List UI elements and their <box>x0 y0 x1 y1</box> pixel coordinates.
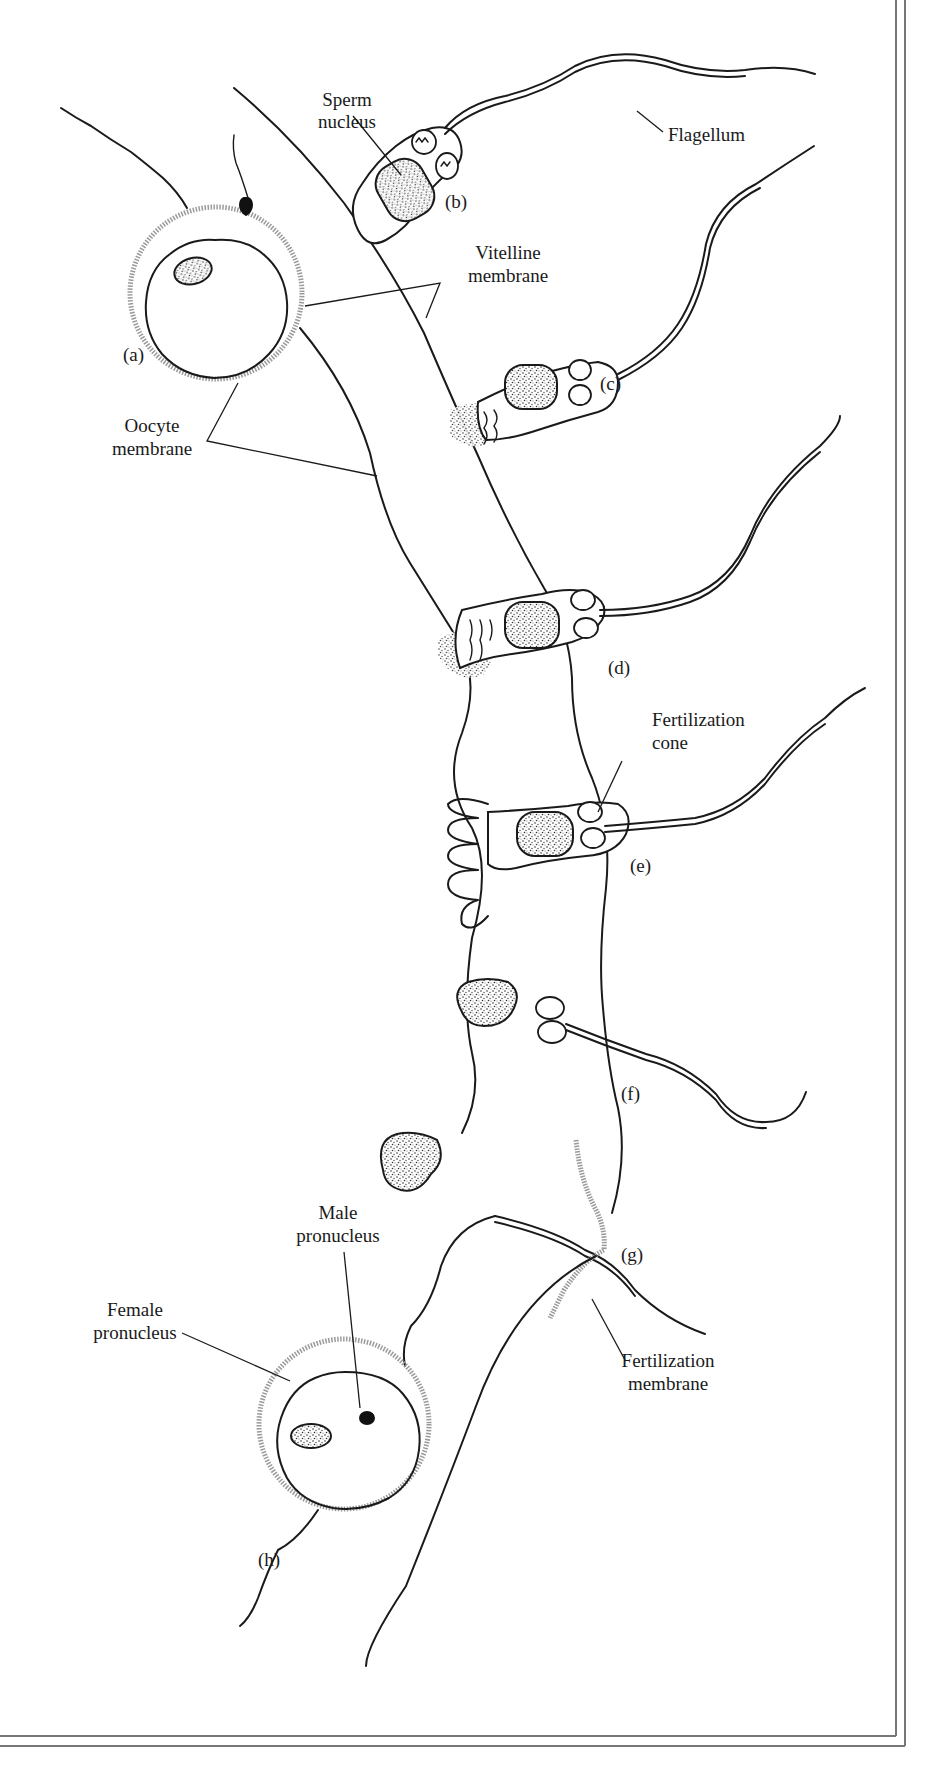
sperm-e-nucleus <box>517 812 573 856</box>
zygote-vitelline-layer <box>259 1339 429 1509</box>
oocyte-membrane-outline <box>146 240 287 378</box>
callout-sperm-nucleus-line1: Sperm <box>322 89 372 110</box>
sperm-d-mitochondrion <box>571 590 595 610</box>
stage-b-sperm <box>353 54 815 243</box>
oocyte-membrane-line <box>300 328 482 1133</box>
callout-fertilization-cone-line1: Fertilization <box>652 709 745 730</box>
sperm-e-flagellum-inner <box>605 724 825 832</box>
fertilization-diagram: (a) (b) (c) (d) (e) (f) (g) (h) Sperm nu… <box>0 0 932 1774</box>
stage-h-zygote <box>240 1216 596 1666</box>
label-stage-h: (h) <box>258 1549 280 1571</box>
vitelline-layer <box>130 207 302 379</box>
label-stage-c: (c) <box>600 373 621 395</box>
label-stage-a: (a) <box>123 344 144 366</box>
sperm-d-nucleus <box>505 602 559 648</box>
leader-fertilization-membrane <box>592 1299 625 1360</box>
sperm-f-mitochondrion <box>538 1021 566 1043</box>
lower-membrane-left <box>404 1216 495 1366</box>
callout-vitelline-membrane-line1: Vitelline <box>475 242 540 263</box>
female-pronucleus <box>291 1424 331 1448</box>
callout-fertilization-cone-line2: cone <box>652 732 688 753</box>
sperm-e-mitochondrion <box>581 828 605 848</box>
sperm-d-flagellum <box>600 416 840 610</box>
sperm-g-flagellum <box>495 1216 705 1334</box>
stage-d-sperm <box>438 416 840 678</box>
sperm-d-mitochondrion <box>574 618 598 638</box>
leader-flagellum <box>637 111 663 132</box>
callout-flagellum: Flagellum <box>668 124 745 145</box>
callout-sperm-nucleus-line2: nucleus <box>318 111 376 132</box>
callout-oocyte-membrane-line1: Oocyte <box>125 415 180 436</box>
figure-frame <box>0 0 905 1746</box>
sperm-b-flagellum <box>445 54 815 128</box>
callout-vitelline-membrane-line2: membrane <box>468 265 548 286</box>
leader-male-pronucleus <box>344 1252 360 1408</box>
diagram-canvas: (a) (b) (c) (d) (e) (f) (g) (h) Sperm nu… <box>0 0 932 1774</box>
leader-lines <box>182 111 663 1408</box>
label-stage-f: (f) <box>621 1083 640 1105</box>
leader-oocyte-membrane <box>207 383 377 476</box>
sperm-f-mitochondrion <box>536 997 564 1019</box>
callout-female-pronucleus-line2: pronucleus <box>93 1322 176 1343</box>
sperm-g-nucleus <box>381 1133 441 1191</box>
sperm-c-flagellum <box>618 146 814 374</box>
stage-c-sperm <box>450 146 814 446</box>
sperm-c-mitochondrion <box>569 385 591 405</box>
sperm-c-flagellum-inner <box>618 188 760 380</box>
callout-male-pronucleus-line2: pronucleus <box>296 1225 379 1246</box>
callout-fertilization-membrane-line2: membrane <box>628 1373 708 1394</box>
label-stage-b: (b) <box>445 191 467 213</box>
sperm-head-icon <box>240 198 252 215</box>
oocyte-nucleus <box>171 254 214 289</box>
callout-male-pronucleus-line1: Male <box>318 1202 357 1223</box>
label-stage-d: (d) <box>608 657 630 679</box>
sperm-c-nucleus <box>505 365 557 409</box>
callout-female-pronucleus-line1: Female <box>107 1299 163 1320</box>
label-stage-g: (g) <box>621 1244 643 1266</box>
stage-f-sperm <box>457 979 806 1128</box>
callout-fertilization-membrane-line1: Fertilization <box>622 1350 715 1371</box>
sperm-f-nucleus <box>457 979 517 1026</box>
leader-vitelline-membrane <box>305 283 440 318</box>
leader-female-pronucleus <box>182 1333 290 1381</box>
sperm-f-flagellum <box>566 1024 806 1122</box>
stage-g <box>381 1133 705 1334</box>
sperm-b-flagellum-inner <box>445 60 745 134</box>
cortex-line-left <box>61 108 187 208</box>
sperm-g-flagellum-inner <box>495 1222 635 1296</box>
male-pronucleus <box>359 1411 375 1425</box>
callout-oocyte-membrane-line2: membrane <box>112 438 192 459</box>
sperm-tail <box>233 135 248 198</box>
fertilization-membrane-line <box>550 1140 604 1318</box>
lower-membrane-right <box>366 1256 596 1666</box>
label-stage-e: (e) <box>630 855 651 877</box>
stage-a-oocyte <box>61 108 302 379</box>
sperm-c-mitochondrion <box>569 360 591 380</box>
